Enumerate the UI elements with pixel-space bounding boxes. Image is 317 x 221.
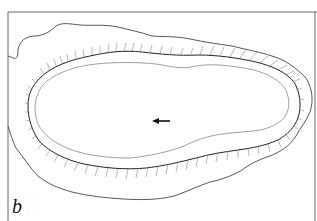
direction-arrow-icon: [152, 118, 170, 124]
figure-panel: [0, 0, 317, 221]
inner-outline: [35, 63, 289, 159]
panel-label: b: [12, 196, 22, 216]
panel-frame: [8, 12, 317, 221]
outer-outline: [8, 24, 312, 200]
hatched-margin: [28, 51, 300, 169]
